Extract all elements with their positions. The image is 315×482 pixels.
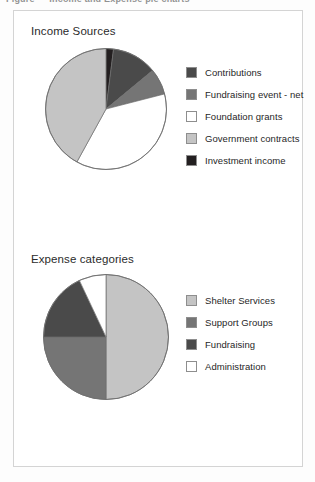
chart-block-income: Income Sources ContributionsFundraising … xyxy=(14,15,304,225)
legend-expense: Shelter ServicesSupport GroupsFundraisin… xyxy=(186,291,275,379)
legend-swatch-icon xyxy=(186,155,197,166)
pie-slice xyxy=(44,337,107,400)
legend-item: Support Groups xyxy=(186,313,275,331)
chart-title-expense: Expense categories xyxy=(31,253,134,265)
legend-item: Shelter Services xyxy=(186,291,275,309)
cut-off-header-text: Figure — Income and Expense pie charts xyxy=(0,0,315,9)
chart-title-income: Income Sources xyxy=(31,25,116,37)
legend-item-label: Investment income xyxy=(205,155,286,166)
legend-swatch-icon xyxy=(186,361,197,372)
pie-slice xyxy=(106,275,169,400)
legend-item: Fundraising event - net xyxy=(186,85,303,103)
figure-root: Figure — Income and Expense pie charts I… xyxy=(0,0,315,482)
chart-block-expense: Expense categories Shelter ServicesSuppo… xyxy=(14,243,304,463)
pie-chart-expense xyxy=(42,273,170,401)
legend-item-label: Support Groups xyxy=(205,317,273,328)
legend-swatch-icon xyxy=(186,67,197,78)
legend-item-label: Administration xyxy=(205,361,266,372)
legend-item-label: Fundraising event - net xyxy=(205,89,303,100)
legend-item: Investment income xyxy=(186,151,303,169)
legend-income: ContributionsFundraising event - netFoun… xyxy=(186,63,303,173)
legend-item: Contributions xyxy=(186,63,303,81)
legend-swatch-icon xyxy=(186,89,197,100)
figure-panel: Income Sources ContributionsFundraising … xyxy=(13,10,303,467)
pie-chart-income xyxy=(44,47,168,171)
legend-item: Administration xyxy=(186,357,275,375)
legend-swatch-icon xyxy=(186,111,197,122)
legend-swatch-icon xyxy=(186,339,197,350)
legend-item-label: Shelter Services xyxy=(205,295,275,306)
legend-swatch-icon xyxy=(186,317,197,328)
legend-item: Government contracts xyxy=(186,129,303,147)
legend-item: Foundation grants xyxy=(186,107,303,125)
legend-item-label: Government contracts xyxy=(205,133,299,144)
legend-item-label: Foundation grants xyxy=(205,111,282,122)
legend-item-label: Fundraising xyxy=(205,339,255,350)
legend-swatch-icon xyxy=(186,133,197,144)
legend-swatch-icon xyxy=(186,295,197,306)
legend-item-label: Contributions xyxy=(205,67,262,78)
legend-item: Fundraising xyxy=(186,335,275,353)
